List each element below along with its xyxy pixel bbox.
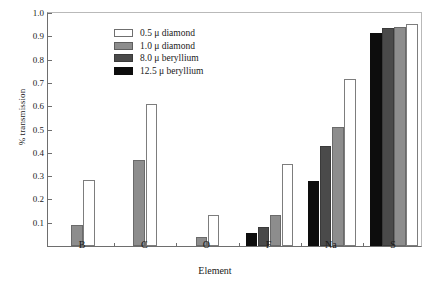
x-tick-label-na: Na: [325, 239, 337, 250]
x-tick-label-f: F: [266, 239, 272, 250]
y-tick-mark: [48, 153, 52, 154]
legend-item: 12.5 μ beryllium: [114, 65, 203, 78]
legend-item: 1.0 μ diamond: [114, 40, 203, 53]
legend-swatch-icon: [114, 29, 133, 37]
y-tick-label: 0.5: [14, 125, 44, 134]
bar: [282, 164, 294, 246]
bar: [394, 27, 406, 246]
bar: [146, 104, 158, 246]
x-minor-tick-mark: [176, 243, 177, 246]
y-tick-label: 0.8: [14, 55, 44, 64]
bar: [308, 181, 320, 246]
y-tick-mark: [48, 36, 52, 37]
legend-item: 0.5 μ diamond: [114, 27, 203, 40]
y-tick-label: 0.9: [14, 32, 44, 41]
chart-legend: 0.5 μ diamond1.0 μ diamond8.0 μ berylliu…: [114, 27, 203, 77]
y-tick-label: 0.3: [14, 172, 44, 181]
y-tick-mark: [48, 13, 52, 14]
y-tick-mark: [48, 83, 52, 84]
y-tick-label: 0.1: [14, 218, 44, 227]
bar-chart: % transmission 0.10.20.30.40.50.60.70.80…: [0, 0, 430, 288]
y-tick-mark: [48, 176, 52, 177]
bar: [320, 146, 332, 246]
bar: [406, 24, 418, 247]
bar: [133, 160, 145, 246]
x-minor-tick-mark: [114, 243, 115, 246]
bar: [246, 233, 258, 246]
legend-swatch-icon: [114, 42, 133, 50]
x-tick-label-s: S: [390, 239, 396, 250]
x-minor-tick-mark: [239, 243, 240, 246]
y-tick-label: 0.4: [14, 148, 44, 157]
bar: [83, 180, 95, 246]
y-tick-mark: [48, 130, 52, 131]
y-tick-label: 0.6: [14, 102, 44, 111]
legend-swatch-icon: [114, 54, 133, 62]
bar: [382, 28, 394, 246]
legend-label: 12.5 μ beryllium: [140, 66, 203, 76]
legend-label: 0.5 μ diamond: [140, 28, 195, 38]
x-tick-label-b: B: [79, 239, 86, 250]
y-tick-mark: [48, 223, 52, 224]
bar: [370, 33, 382, 246]
y-tick-label: 0.7: [14, 78, 44, 87]
legend-swatch-icon: [114, 67, 133, 75]
y-tick-mark: [48, 60, 52, 61]
bar: [344, 79, 356, 246]
x-tick-label-o: O: [203, 239, 210, 250]
x-axis-label: Element: [0, 265, 430, 276]
plot-area: 0.10.20.30.40.50.60.70.80.91.0 0.5 μ dia…: [47, 12, 422, 247]
x-tick-label-c: C: [141, 239, 148, 250]
legend-item: 8.0 μ beryllium: [114, 52, 203, 65]
y-tick-mark: [48, 106, 52, 107]
y-tick-mark: [48, 199, 52, 200]
x-minor-tick-mark: [301, 243, 302, 246]
bar: [332, 127, 344, 246]
legend-label: 1.0 μ diamond: [140, 41, 195, 51]
y-tick-label: 0.2: [14, 195, 44, 204]
x-minor-tick-mark: [363, 243, 364, 246]
legend-label: 8.0 μ beryllium: [140, 53, 199, 63]
y-tick-label: 1.0: [14, 9, 44, 18]
